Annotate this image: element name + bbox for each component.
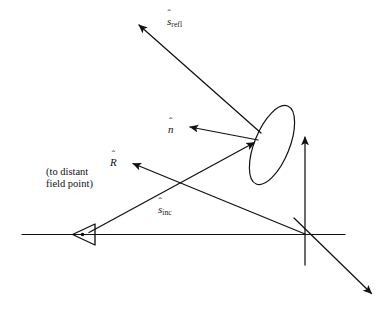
s-inc-subscript: inc: [162, 208, 171, 217]
ray-n-hat: [190, 127, 258, 140]
s-inc-hat-accent: ˆ: [158, 197, 161, 207]
n-hat-hat-accent: ˆ: [169, 117, 172, 127]
scattering-geometry-figure: ˆsrefl ˆn ˆR ˆsinc (to distant field poi…: [0, 0, 392, 313]
r-hat-symbol: ˆR: [110, 156, 117, 169]
s-inc-symbol: ˆs: [158, 203, 162, 216]
label-s-inc: ˆsinc: [158, 199, 172, 217]
field-point-line-2: field point): [46, 178, 93, 190]
s-refl-hat-accent: ˆ: [167, 9, 170, 19]
r-hat-hat-accent: ˆ: [112, 150, 115, 160]
label-s-refl: ˆsrefl: [167, 11, 182, 29]
diagram-canvas: [0, 0, 392, 313]
label-n-hat: ˆn: [168, 119, 174, 137]
s-refl-symbol: ˆs: [167, 15, 171, 28]
label-r-hat: ˆR: [110, 152, 117, 170]
label-distant-field-point: (to distant field point): [46, 166, 93, 190]
n-hat-symbol: ˆn: [168, 123, 174, 136]
field-point-line-1: (to distant: [46, 166, 93, 178]
s-refl-subscript: refl: [171, 20, 182, 29]
source-dot: [81, 233, 85, 237]
ray-s-refl: [139, 25, 261, 133]
